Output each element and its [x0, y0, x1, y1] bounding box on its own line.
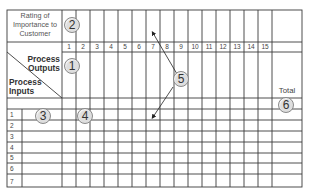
callout-6-total: 6 — [278, 97, 294, 113]
column-header-12: 12 — [216, 42, 230, 52]
row-header-7: 7 — [8, 176, 23, 187]
column-header-15: 15 — [258, 42, 272, 52]
column-header-14: 14 — [244, 42, 258, 52]
callout-2-rating: 2 — [64, 17, 80, 33]
column-header-9: 9 — [174, 42, 188, 52]
rating-line-3: Customer — [8, 29, 62, 38]
row-header-2: 2 — [8, 121, 23, 131]
inputs-line-2: Inputs — [9, 87, 42, 96]
column-header-7: 7 — [146, 42, 160, 52]
row-header-4: 4 — [8, 143, 23, 153]
column-header-11: 11 — [202, 42, 216, 52]
column-header-5: 5 — [118, 42, 132, 52]
column-header-8: 8 — [160, 42, 174, 52]
rating-line-2: Importance to — [8, 20, 62, 29]
column-header-4: 4 — [104, 42, 118, 52]
column-header-3: 3 — [90, 42, 104, 52]
process-outputs-label: Process Outputs — [24, 55, 60, 73]
column-header-13: 13 — [230, 42, 244, 52]
rating-line-1: Rating of — [8, 11, 62, 20]
column-header-10: 10 — [188, 42, 202, 52]
outputs-line-2: Outputs — [24, 64, 60, 73]
callout-1-outputs: 1 — [64, 58, 80, 74]
total-label: Total — [272, 86, 302, 95]
callout-4-cells: 4 — [77, 108, 93, 124]
row-header-5: 5 — [8, 153, 23, 163]
rating-of-importance-label: Rating of Importance to Customer — [8, 11, 62, 38]
row-header-1: 1 — [8, 110, 23, 120]
row-header-3: 3 — [8, 132, 23, 142]
row-header-6: 6 — [8, 164, 23, 174]
cause-effect-matrix-diagram: Rating of Importance to Customer Process… — [0, 0, 309, 196]
column-header-2: 2 — [76, 42, 90, 52]
callout-3-inputs: 3 — [35, 108, 51, 124]
process-inputs-label: Process Inputs — [9, 78, 42, 96]
column-header-6: 6 — [132, 42, 146, 52]
column-header-1: 1 — [62, 42, 76, 52]
callout-5-arrows: 5 — [173, 71, 189, 87]
